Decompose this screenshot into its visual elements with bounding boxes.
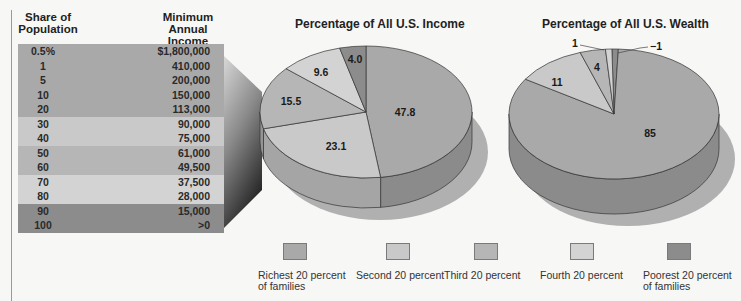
legend-label: Fourth 20 percent (540, 270, 650, 281)
slice-label: 15.5 (281, 95, 302, 107)
legend-swatch (283, 243, 307, 260)
slice-label: 4.0 (348, 53, 363, 65)
legend-item: Richest 20 percent of families (258, 243, 368, 292)
slice-label: 47.8 (395, 106, 416, 118)
legend-swatch (474, 243, 498, 260)
slice-label: 23.1 (326, 140, 347, 152)
income-pie: 47.823.115.59.64.0 (260, 46, 488, 220)
legend-item: Poorest 20 percent of families (643, 243, 741, 292)
slice-label: 1 (572, 37, 578, 49)
legend-item: Fourth 20 percent (540, 243, 650, 281)
legend-label: Poorest 20 percent of families (643, 270, 738, 292)
legend-label: Third 20 percent (444, 270, 554, 281)
slice-label: −1 (650, 40, 662, 52)
slice-label: 9.6 (314, 66, 329, 78)
legend-swatch (667, 243, 691, 260)
legend-swatch (386, 243, 410, 260)
slice-label: 85 (644, 127, 656, 139)
legend-label: Richest 20 percent of families (258, 270, 353, 292)
slice-label: 11 (551, 76, 562, 88)
wealth-pie: −1851141 (509, 37, 735, 226)
slice-label: 4 (594, 61, 600, 73)
legend-item: Third 20 percent (444, 243, 554, 281)
legend-swatch (570, 243, 594, 260)
